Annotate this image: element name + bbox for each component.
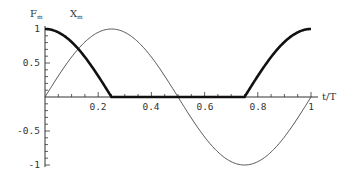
y-tick-label: 1 — [34, 23, 40, 34]
y-tick-label: -1 — [29, 159, 41, 170]
y-tick-label: -0.5 — [17, 125, 40, 136]
x-tick-label: 0.8 — [249, 101, 266, 112]
legend-label-f: F — [30, 8, 37, 19]
x-tick-label: 1 — [308, 101, 314, 112]
y-tick-label: 0.5 — [23, 57, 40, 68]
legend-label-f-sub: m — [37, 13, 43, 20]
x-tick-label: 0.4 — [142, 101, 159, 112]
chart: 1 0.5 -0.5 -1 0.2 0.4 0.6 0.8 1 t/T F m … — [0, 0, 362, 176]
x-tick-label: 0.2 — [89, 101, 106, 112]
x-axis-label: t/T — [322, 91, 336, 102]
x-tick-label: 0.6 — [196, 101, 213, 112]
series-f-m-line — [45, 29, 311, 97]
legend-label-x-sub: m — [77, 13, 83, 20]
